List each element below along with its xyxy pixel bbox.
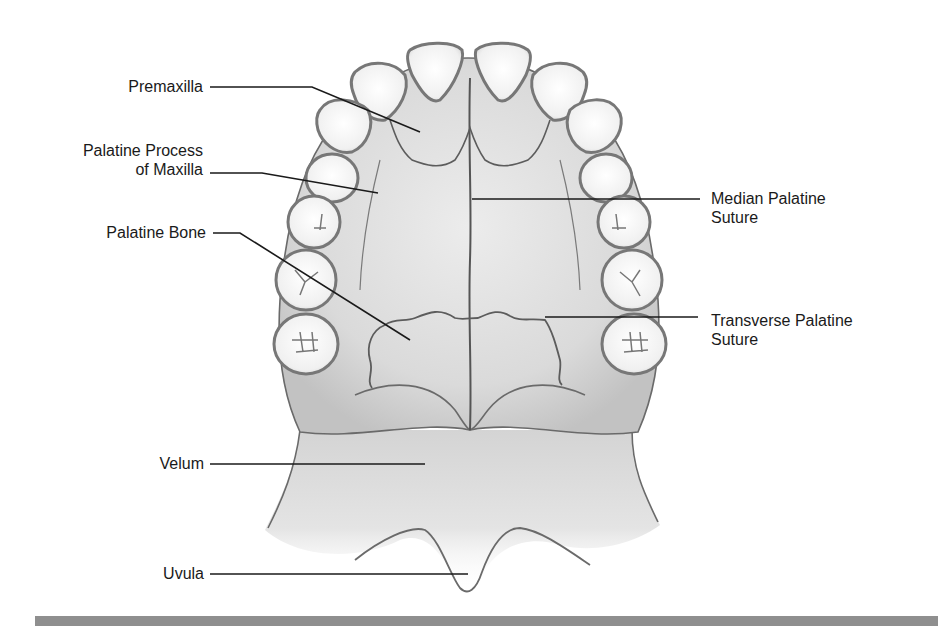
tooth-premolar-2-left — [288, 196, 340, 248]
tooth-molar-1-left — [276, 250, 336, 310]
label-velum: Velum — [160, 454, 204, 473]
label-median-palatine-suture: Median Palatine Suture — [711, 189, 826, 227]
tooth-premolar-2-right — [598, 196, 650, 248]
tooth-molar-1-right — [602, 250, 662, 310]
label-palatine-bone: Palatine Bone — [106, 223, 206, 242]
tooth-molar-2-right — [602, 314, 666, 374]
label-premaxilla: Premaxilla — [128, 77, 203, 96]
label-median-suture-line2: Suture — [711, 208, 826, 227]
label-transverse-suture-line1: Transverse Palatine — [711, 311, 853, 330]
bottom-divider-bar — [35, 616, 938, 626]
label-transverse-palatine-suture: Transverse Palatine Suture — [711, 311, 853, 349]
tooth-molar-2-left — [274, 314, 338, 374]
label-palatine-process-line2: of Maxilla — [83, 160, 203, 179]
label-transverse-suture-line2: Suture — [711, 330, 853, 349]
label-palatine-process: Palatine Process of Maxilla — [83, 141, 203, 179]
velum-shape — [265, 430, 660, 594]
label-median-suture-line1: Median Palatine — [711, 189, 826, 208]
label-uvula: Uvula — [163, 564, 204, 583]
label-palatine-process-line1: Palatine Process — [83, 141, 203, 160]
